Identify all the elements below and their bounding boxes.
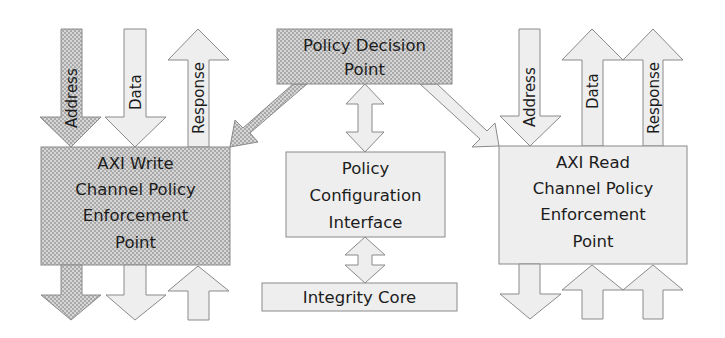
write-data-out-arrow bbox=[106, 265, 166, 320]
write-response-label: Response bbox=[190, 62, 208, 134]
read-data-in-arrow bbox=[562, 265, 623, 319]
write-pep-label-line3: Enforcement bbox=[83, 206, 189, 225]
write-pep-label-line2: Channel Policy bbox=[75, 180, 196, 199]
read-pep-label-line4: Point bbox=[573, 232, 614, 251]
pdp-to-write-pep-arrow bbox=[230, 84, 307, 147]
write-pep-label-line1: AXI Write bbox=[97, 154, 173, 173]
pci-label-line2: Configuration bbox=[310, 186, 422, 205]
write-data-label: Data bbox=[127, 74, 145, 110]
write-response-in-arrow bbox=[168, 266, 229, 320]
pdp-label-line2: Point bbox=[344, 60, 385, 79]
read-address-out-arrow bbox=[500, 264, 561, 319]
integrity-core-label: Integrity Core bbox=[303, 288, 416, 307]
pdp-label-line1: Policy Decision bbox=[303, 36, 426, 55]
read-data-label: Data bbox=[584, 73, 602, 109]
read-pep-label-line2: Channel Policy bbox=[533, 179, 654, 198]
pci-label-line3: Interface bbox=[329, 213, 403, 232]
write-address-out-arrow bbox=[41, 265, 101, 320]
pdp-pci-bidirectional-arrow bbox=[346, 84, 384, 152]
pdp-to-read-pep-arrow bbox=[420, 84, 499, 147]
policy-architecture-diagram: Address Data Response Address Data Respo… bbox=[0, 0, 725, 338]
pci-integrity-bidirectional-arrow bbox=[345, 237, 385, 283]
read-response-label: Response bbox=[645, 62, 663, 134]
read-response-in-arrow bbox=[623, 265, 683, 319]
read-pep-label-line3: Enforcement bbox=[540, 205, 646, 224]
pci-label-line1: Policy bbox=[342, 159, 390, 178]
write-pep-label-line4: Point bbox=[115, 233, 156, 252]
read-address-label: Address bbox=[521, 67, 539, 127]
write-address-label: Address bbox=[63, 68, 81, 128]
read-pep-label-line1: AXI Read bbox=[556, 153, 630, 172]
